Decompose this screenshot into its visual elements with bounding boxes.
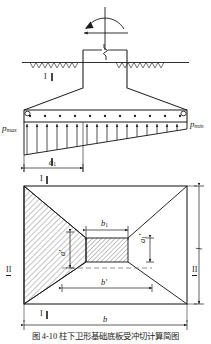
punching-shear-area-left-hatch <box>24 186 86 304</box>
section-mark-II-left: II <box>6 266 11 276</box>
rebar-hook-right <box>181 111 186 116</box>
dimension-label-b: b <box>103 315 107 324</box>
reinforcement-bar-dots <box>29 115 181 117</box>
label-p-min: pmin <box>190 120 204 129</box>
plan-view <box>24 73 204 330</box>
dimension-label-a1: a1 <box>49 158 56 168</box>
load-symbol-group <box>84 7 128 50</box>
pressure-arrows <box>27 124 177 155</box>
label-p-max: pmax <box>2 124 17 133</box>
dimension-label-b-prime: b' <box>101 278 107 287</box>
pressure-distribution-diagram <box>24 122 187 155</box>
dimension-label-a-prime: a' <box>58 250 67 256</box>
ground-hatching-left <box>30 63 78 68</box>
dimension-label-a1-prime: a1' <box>138 234 148 243</box>
column-footprint-hatch <box>86 238 128 262</box>
section-mark-I-plan-top: I <box>40 175 43 183</box>
elevation-view <box>22 7 189 172</box>
column-break-symbol <box>103 44 107 60</box>
section-mark-II-right: II <box>192 266 197 276</box>
figure-svg <box>0 0 211 344</box>
pressure-envelope-line <box>24 129 187 155</box>
dimension-label-b1: b1 <box>101 219 108 229</box>
section-mark-I-plan-bottom: I <box>40 310 43 318</box>
engineering-figure <box>0 0 211 344</box>
moment-arrow-head <box>85 22 94 29</box>
figure-caption: 图 4-10 柱下卫形基础底板受冲切计算简图 <box>0 331 211 342</box>
section-mark-I-elevation: I <box>44 73 47 81</box>
dimension-l-overall <box>187 186 204 304</box>
footing-outline <box>24 50 187 122</box>
ground-hatching-right <box>116 63 164 68</box>
dimension-label-l: l <box>195 248 204 250</box>
rebar-hook-left <box>25 111 30 116</box>
